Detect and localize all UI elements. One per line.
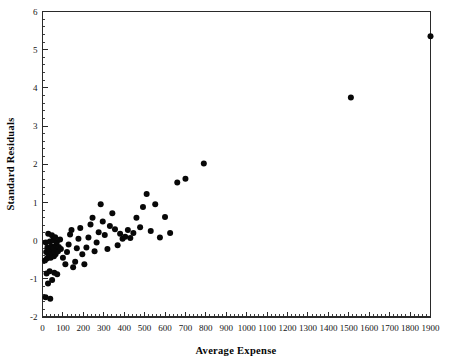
data-point: [112, 226, 118, 232]
x-tick-label: 200: [77, 323, 91, 333]
x-tick-label: 1000: [238, 323, 257, 333]
x-tick-label: 800: [199, 323, 213, 333]
x-tick-label: 400: [117, 323, 131, 333]
data-point: [144, 191, 150, 197]
data-point: [107, 223, 113, 229]
data-point: [428, 33, 434, 39]
data-point: [92, 248, 98, 254]
x-tick-label: 300: [97, 323, 111, 333]
x-tick-label: 100: [56, 323, 70, 333]
data-point: [75, 236, 81, 242]
x-tick-label: 1800: [401, 323, 420, 333]
data-point: [130, 230, 136, 236]
data-point: [167, 230, 173, 236]
data-point: [115, 242, 121, 248]
data-point: [85, 235, 91, 241]
data-point: [104, 246, 110, 252]
data-point: [201, 160, 207, 166]
x-tick-label: 0: [40, 323, 45, 333]
data-point: [152, 201, 158, 207]
y-tick-label: 0: [33, 236, 38, 246]
y-tick-label: 4: [33, 83, 38, 93]
data-point: [47, 296, 53, 302]
data-point: [140, 204, 146, 210]
y-axis-title: Standard Residuals: [5, 117, 16, 210]
data-point: [70, 264, 76, 270]
data-point: [60, 255, 66, 261]
data-point: [102, 232, 108, 238]
data-point: [87, 222, 93, 228]
x-tick-label: 1300: [299, 323, 318, 333]
data-point: [127, 235, 133, 241]
x-tick-label: 1200: [279, 323, 298, 333]
y-tick-label: -1: [30, 274, 38, 284]
x-tick-label: 1500: [340, 323, 359, 333]
data-point: [96, 229, 102, 235]
data-point: [94, 240, 100, 246]
data-point: [133, 215, 139, 221]
data-point: [69, 227, 75, 233]
data-point: [174, 180, 180, 186]
x-tick-label: 1100: [258, 323, 276, 333]
data-point: [64, 249, 70, 255]
data-point: [90, 215, 96, 221]
x-axis-title: Average Expense: [196, 345, 277, 356]
x-tick-label: 1400: [319, 323, 338, 333]
data-point: [62, 261, 68, 267]
data-point: [66, 241, 72, 247]
data-point: [182, 176, 188, 182]
x-axis: 0100200300400500600700800900100011001200…: [40, 312, 440, 333]
data-point: [58, 246, 64, 252]
data-point: [157, 235, 163, 241]
scatter-plot-figure: -2-10123456 0100200300400500600700800900…: [0, 0, 454, 361]
data-point: [49, 277, 55, 283]
data-point: [74, 245, 80, 251]
y-tick-label: 1: [33, 198, 38, 208]
x-tick-label: 600: [158, 323, 172, 333]
x-tick-label: 900: [220, 323, 234, 333]
x-tick-label: 1700: [381, 323, 400, 333]
data-point: [348, 94, 354, 100]
y-tick-label: 2: [33, 159, 38, 169]
data-point: [72, 259, 78, 265]
data-point: [122, 234, 128, 240]
x-tick-label: 700: [179, 323, 193, 333]
data-point: [162, 214, 168, 220]
y-tick-label: -2: [30, 312, 38, 322]
y-tick-label: 6: [33, 7, 38, 17]
data-point: [54, 271, 60, 277]
y-tick-label: 5: [33, 45, 38, 55]
data-point: [77, 225, 83, 231]
data-point: [125, 227, 131, 233]
data-point: [98, 201, 104, 207]
scatter-chart-canvas: -2-10123456 0100200300400500600700800900…: [0, 0, 454, 361]
x-tick-label: 500: [138, 323, 152, 333]
plot-frame: [43, 12, 431, 318]
data-point-series: [42, 33, 434, 301]
x-tick-label: 1600: [360, 323, 379, 333]
data-point: [100, 219, 106, 225]
data-point: [137, 224, 143, 230]
data-point: [81, 261, 87, 267]
x-tick-label: 1900: [422, 323, 441, 333]
data-point: [109, 210, 115, 216]
data-point: [79, 251, 85, 257]
data-point: [83, 245, 89, 251]
y-tick-label: 3: [33, 121, 38, 131]
data-point: [52, 234, 58, 240]
data-point: [148, 228, 154, 234]
